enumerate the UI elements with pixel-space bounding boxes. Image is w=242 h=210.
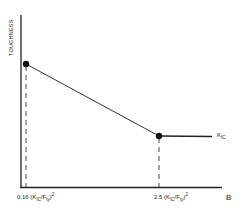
y-axis-label: TOUGHNESS [8,19,14,56]
kic-label: KIC [217,132,226,140]
diagram-canvas [0,0,242,210]
tick2-num: 2.5 [154,194,162,200]
point-2 [156,133,162,139]
tick2-sq: 2 [185,192,188,197]
plateau-line [159,136,212,137]
point-1 [23,61,29,67]
kic-sub: IC [221,135,226,140]
tick2-ty: ty [180,197,184,202]
tick2-ic: IC [170,197,175,202]
tick1-ty: ty [46,197,50,202]
x-axis-label: B [226,193,231,202]
x-tick-2: 2.5 (KIC/Fty)2 [154,192,188,202]
tick1-sq: 2 [52,192,55,197]
tick1-ic: IC [36,197,41,202]
x-tick-1: 0.16 (KIC/Fty)2 [17,192,54,202]
tick1-num: 0.16 [17,194,29,200]
decline-line [26,64,159,136]
